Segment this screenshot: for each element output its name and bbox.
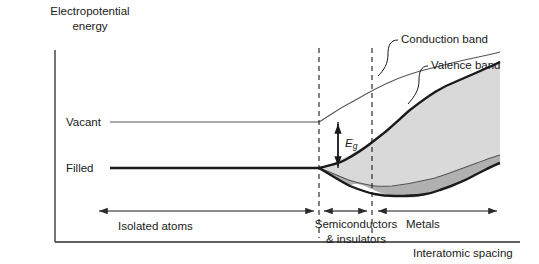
band-gap-label: Eg [345,136,357,151]
x-axis-title: Interatomic spacing [413,246,513,261]
y-axis-title-line1: Electropotential [50,5,129,17]
filled-level-label: Filled [66,161,93,176]
region-label-semiconductors-line2: & insulators [310,232,402,247]
band-label-leaders [378,40,428,104]
y-axis-title: Electropotential energy [30,4,150,33]
region-label-semiconductors: Semiconductors & insulators [310,217,402,246]
vacant-level-label: Vacant [66,115,101,130]
y-axis-title-line2: energy [30,19,150,34]
conduction-band-label: Conduction band [401,32,488,47]
band-structure-diagram: Electropotential energy Vacant Filled Co… [0,0,539,264]
region-label-semiconductors-line1: Semiconductors [315,218,397,230]
region-label-isolated-atoms: Isolated atoms [118,219,193,234]
energy-levels [110,122,319,168]
region-label-metals: Metals [406,217,440,232]
valence-band-label: Valence band [431,58,500,73]
band-gap-subscript: g [353,141,358,151]
band-gap-symbol: E [345,137,353,149]
conduction-label-leader [378,40,398,76]
